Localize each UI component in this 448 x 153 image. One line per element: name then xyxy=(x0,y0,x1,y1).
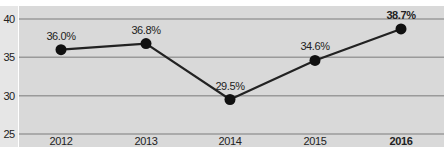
x-tick-label: 2013 xyxy=(135,135,158,147)
data-label: 29.5% xyxy=(215,80,245,92)
y-tick-label: 25 xyxy=(3,128,15,140)
data-label: 38.7% xyxy=(386,9,416,21)
y-tick-label: 40 xyxy=(3,13,15,25)
x-tick-label: 2012 xyxy=(50,135,73,147)
data-label: 36.0% xyxy=(46,30,76,42)
data-point-marker xyxy=(225,94,236,105)
x-tick-label: 2015 xyxy=(304,135,327,147)
data-point-marker xyxy=(141,38,152,49)
data-point-marker xyxy=(396,23,407,34)
y-tick-label: 35 xyxy=(3,51,15,63)
data-point-marker xyxy=(310,55,321,66)
data-label: 36.8% xyxy=(131,24,161,36)
chart-svg: 2530354036.0%201236.8%201329.5%201434.6%… xyxy=(0,0,448,153)
y-tick-label: 30 xyxy=(3,90,15,102)
x-tick-label: 2016 xyxy=(390,135,413,147)
data-point-marker xyxy=(56,44,67,55)
x-tick-label: 2014 xyxy=(219,135,242,147)
line-chart: 2530354036.0%201236.8%201329.5%201434.6%… xyxy=(0,0,448,153)
data-label: 34.6% xyxy=(300,40,330,52)
